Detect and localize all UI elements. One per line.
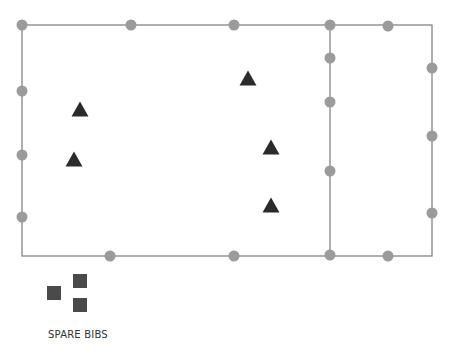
bib-square-icon [47,286,61,300]
players [66,71,280,213]
player-triangle-icon [263,198,280,213]
player-triangle-icon [240,71,257,86]
cone-icon [126,20,137,31]
cone-icon [325,97,336,108]
bib-square-icon [73,298,87,312]
cone-icon [325,250,336,261]
cone-icon [17,86,28,97]
spare-bibs-label: SPARE BIBS [48,329,108,340]
cone-icon [383,21,394,32]
cone-icon [427,131,438,142]
cone-icon [17,150,28,161]
cone-icon [105,251,116,262]
player-triangle-icon [263,140,280,155]
cone-icon [325,166,336,177]
cone-icon [17,20,28,31]
cone-icon [229,251,240,262]
spare-bibs [47,274,87,312]
cone-icon [427,208,438,219]
field-boundary [22,25,432,256]
field-lines [22,25,432,256]
cone-icon [427,63,438,74]
player-triangle-icon [66,152,83,167]
drill-diagram [0,0,454,359]
cone-icon [229,20,240,31]
bib-square-icon [73,274,87,288]
cone-icon [325,53,336,64]
player-triangle-icon [72,102,89,117]
cone-icon [383,251,394,262]
cone-icon [17,212,28,223]
cones [17,20,438,262]
cone-icon [325,20,336,31]
